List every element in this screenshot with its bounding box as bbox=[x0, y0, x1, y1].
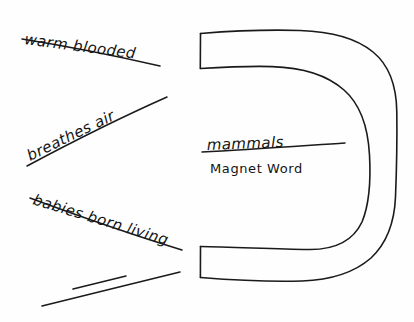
magnet-inner-contour bbox=[201, 66, 370, 249]
horseshoe-magnet bbox=[200, 30, 397, 281]
attribute-label-3: babies born living bbox=[31, 191, 171, 249]
attribute-slot-2[interactable]: breathes air bbox=[24, 97, 167, 166]
magnet-word-caption: Magnet Word bbox=[210, 161, 303, 176]
worksheet-canvas: warm blooded breathes air babies born li… bbox=[0, 0, 414, 322]
attribute-slot-4[interactable] bbox=[42, 272, 180, 306]
drawing-surface: warm blooded breathes air babies born li… bbox=[0, 0, 414, 322]
attribute-slot-1[interactable]: warm blooded bbox=[22, 30, 160, 66]
attribute-slot-3[interactable]: babies born living bbox=[30, 191, 182, 250]
magnet-word-group[interactable]: mammals Magnet Word bbox=[202, 133, 345, 176]
magnet-word-label: mammals bbox=[206, 133, 284, 154]
attribute-line-4-long bbox=[42, 272, 180, 306]
attribute-label-2: breathes air bbox=[24, 106, 118, 164]
attribute-label-1: warm blooded bbox=[23, 30, 137, 62]
